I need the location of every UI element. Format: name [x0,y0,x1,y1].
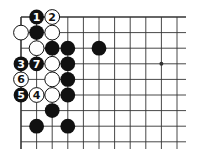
white-stone [45,88,60,103]
black-stone [45,41,60,56]
go-board: 1237654 [0,0,197,155]
black-stone [60,119,75,134]
move-number: 1 [33,11,41,24]
black-stone [92,41,107,56]
star-points [159,62,163,66]
star-point [159,62,163,66]
white-stone: 4 [29,88,44,103]
move-number: 5 [17,89,25,102]
white-stone [29,41,44,56]
move-number: 3 [17,58,25,71]
move-number: 4 [33,89,41,102]
white-stone: 2 [45,10,60,25]
black-stone: 5 [14,88,29,103]
stones: 1237654 [14,10,107,134]
black-stone: 3 [14,56,29,71]
black-stone [60,72,75,87]
black-stone [45,103,60,118]
black-stone [60,56,75,71]
move-number: 6 [17,73,25,86]
white-stone: 6 [14,72,29,87]
white-stone [45,25,60,40]
white-stone [45,72,60,87]
white-stone [45,56,60,71]
move-number: 7 [33,58,41,71]
black-stone: 7 [29,56,44,71]
black-stone [60,41,75,56]
move-number: 2 [48,11,56,24]
black-stone: 1 [29,10,44,25]
black-stone [29,119,44,134]
black-stone [29,25,44,40]
black-stone [60,88,75,103]
white-stone [14,25,29,40]
